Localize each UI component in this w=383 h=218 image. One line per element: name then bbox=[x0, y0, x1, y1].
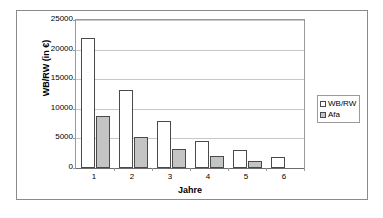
legend-swatch-wbrw-icon bbox=[320, 101, 326, 107]
y-axis-tick bbox=[73, 109, 76, 110]
x-axis-tick-label: 2 bbox=[120, 172, 144, 181]
chart-legend: WB/RW Afa bbox=[317, 95, 360, 123]
bar-afa-5 bbox=[248, 161, 262, 168]
bar-wb-rw-1 bbox=[81, 38, 95, 168]
x-axis-tick bbox=[114, 168, 115, 171]
y-axis-tick-labels: 0500010000150002000025000 bbox=[35, 19, 73, 169]
x-axis-tick bbox=[266, 168, 267, 171]
y-axis-tick bbox=[73, 79, 76, 80]
y-axis-tick bbox=[73, 20, 76, 21]
y-axis-tick-label: 20000 bbox=[35, 45, 73, 53]
bar-afa-1 bbox=[96, 116, 110, 168]
gridline bbox=[76, 109, 304, 110]
x-axis-tick-labels: 123456 bbox=[75, 172, 305, 186]
gridline bbox=[76, 50, 304, 51]
legend-item-afa: Afa bbox=[320, 109, 356, 120]
bar-wb-rw-5 bbox=[233, 150, 247, 168]
x-axis-tick-label: 6 bbox=[272, 172, 296, 181]
x-axis-tick bbox=[228, 168, 229, 171]
gridline bbox=[76, 138, 304, 139]
y-axis-tick-label: 15000 bbox=[35, 74, 73, 82]
y-axis-tick bbox=[73, 50, 76, 51]
bar-wb-rw-4 bbox=[195, 141, 209, 168]
x-axis-tick-label: 3 bbox=[158, 172, 182, 181]
legend-item-wbrw: WB/RW bbox=[320, 98, 356, 109]
bar-wb-rw-6 bbox=[271, 157, 285, 168]
y-axis-tick-label: 10000 bbox=[35, 104, 73, 112]
y-axis-tick bbox=[73, 168, 76, 169]
x-axis-tick bbox=[190, 168, 191, 171]
bar-afa-4 bbox=[210, 156, 224, 168]
y-axis-tick-label: 5000 bbox=[35, 133, 73, 141]
y-axis-tick-label: 25000 bbox=[35, 15, 73, 23]
bar-wb-rw-2 bbox=[119, 90, 133, 168]
x-axis-tick bbox=[152, 168, 153, 171]
x-axis-title: Jahre bbox=[75, 185, 305, 195]
legend-swatch-afa-icon bbox=[320, 112, 326, 118]
chart-frame: WB/RW (in €) 0500010000150002000025000 1… bbox=[16, 10, 368, 200]
legend-label-afa: Afa bbox=[328, 110, 340, 119]
y-axis-tick bbox=[73, 138, 76, 139]
y-axis-tick-label: 0 bbox=[35, 163, 73, 171]
x-axis-tick-label: 5 bbox=[234, 172, 258, 181]
x-axis-tick-label: 1 bbox=[82, 172, 106, 181]
plot-area bbox=[75, 19, 305, 169]
bar-wb-rw-3 bbox=[157, 121, 171, 168]
x-axis-tick bbox=[304, 168, 305, 171]
legend-label-wbrw: WB/RW bbox=[328, 99, 356, 108]
bar-afa-2 bbox=[134, 137, 148, 168]
bar-afa-3 bbox=[172, 149, 186, 168]
gridline bbox=[76, 79, 304, 80]
gridline bbox=[76, 20, 304, 21]
x-axis-tick-label: 4 bbox=[196, 172, 220, 181]
